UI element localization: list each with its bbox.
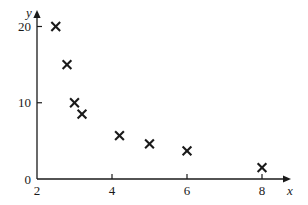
y-tick-label: 20 bbox=[18, 19, 31, 34]
axes-group bbox=[33, 10, 291, 183]
y-axis-label: y bbox=[24, 5, 32, 20]
plot-canvas: 01020 2468 x y bbox=[0, 0, 308, 205]
y-axis-arrowhead bbox=[33, 10, 40, 18]
y-tick-label: 0 bbox=[25, 172, 32, 187]
data-point-marker bbox=[145, 140, 154, 149]
y-tick-label: 10 bbox=[18, 95, 31, 110]
x-tick-label: 2 bbox=[34, 183, 41, 198]
data-point-markers bbox=[51, 22, 266, 172]
x-axis-ticks: 2468 bbox=[34, 174, 266, 198]
x-tick-label: 4 bbox=[109, 183, 116, 198]
data-point-marker bbox=[115, 131, 124, 140]
y-axis-ticks: 01020 bbox=[18, 19, 42, 187]
data-point-marker bbox=[70, 98, 79, 107]
x-axis-label: x bbox=[286, 183, 293, 198]
x-tick-label: 6 bbox=[184, 183, 191, 198]
x-tick-label: 8 bbox=[259, 183, 266, 198]
data-point-marker bbox=[183, 146, 192, 155]
x-axis-arrowhead bbox=[283, 175, 291, 182]
data-point-marker bbox=[258, 163, 267, 172]
scatter-plot-figure: 01020 2468 x y bbox=[0, 0, 308, 205]
data-point-marker bbox=[63, 60, 72, 69]
data-point-marker bbox=[51, 22, 60, 31]
data-point-marker bbox=[78, 110, 87, 119]
